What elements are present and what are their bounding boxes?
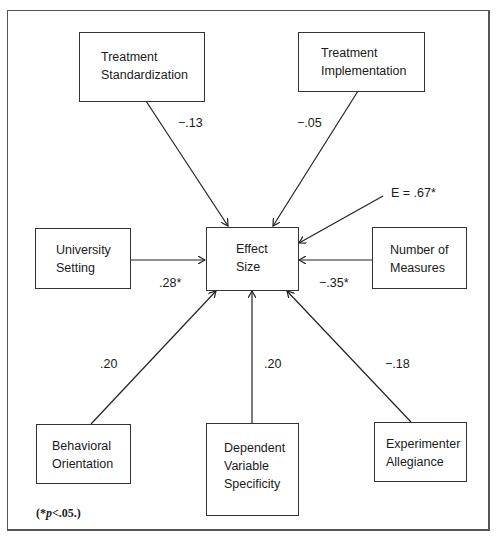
coef-dv-specificity: .20 bbox=[264, 357, 281, 371]
coef-treatment-standardization: −.13 bbox=[178, 116, 203, 130]
node-behavioral-orientation: Behavioral Orientation bbox=[36, 424, 131, 484]
note-open: (* bbox=[36, 506, 46, 520]
node-text: Implementation bbox=[321, 62, 406, 80]
node-text: Size bbox=[236, 258, 268, 276]
node-text: University bbox=[56, 241, 111, 259]
arrow-error bbox=[299, 196, 383, 243]
coef-experimenter-allegiance: −.18 bbox=[385, 357, 410, 371]
coef-treatment-implementation: −.05 bbox=[297, 116, 322, 130]
node-treatment-implementation: Treatment Implementation bbox=[298, 32, 425, 92]
coef-number-of-measures: −.35* bbox=[319, 276, 349, 290]
node-text: Experimenter bbox=[386, 435, 460, 453]
node-text: Specificity bbox=[224, 475, 285, 493]
node-text: Treatment bbox=[321, 44, 406, 62]
node-treatment-standardization: Treatment Standardization bbox=[79, 32, 205, 102]
coef-university-setting: .28* bbox=[159, 276, 181, 290]
node-text: Orientation bbox=[52, 455, 113, 473]
node-experimenter-allegiance: Experimenter Allegiance bbox=[374, 422, 467, 482]
node-number-of-measures: Number of Measures bbox=[372, 227, 467, 289]
node-effect-size: Effect Size bbox=[206, 227, 299, 291]
node-text: Behavioral bbox=[52, 437, 113, 455]
coef-behavioral-orientation: .20 bbox=[100, 357, 117, 371]
node-text: Number of bbox=[390, 241, 448, 259]
coef-error: E = .67* bbox=[391, 186, 436, 200]
node-text: Measures bbox=[390, 259, 448, 277]
node-text: Setting bbox=[56, 259, 111, 277]
node-text: Variable bbox=[224, 457, 285, 475]
node-text: Allegiance bbox=[386, 453, 460, 471]
node-text: Standardization bbox=[101, 66, 188, 84]
significance-note: (*p<.05.) bbox=[36, 506, 81, 521]
node-text: Dependent bbox=[224, 439, 285, 457]
node-text: Effect bbox=[236, 240, 268, 258]
node-text: Treatment bbox=[101, 48, 188, 66]
arrow-treatment-implementation bbox=[273, 91, 358, 226]
node-dv-specificity: Dependent Variable Specificity bbox=[206, 423, 299, 516]
note-rest: <.05.) bbox=[52, 506, 81, 520]
node-university-setting: University Setting bbox=[35, 228, 131, 289]
